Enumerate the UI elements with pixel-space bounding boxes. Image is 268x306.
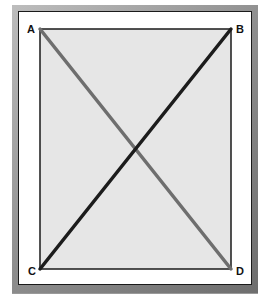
vertex-label-d: D (236, 266, 244, 277)
rectangle-diagram (0, 0, 268, 306)
vertex-label-b: B (236, 24, 244, 35)
vertex-label-a: A (27, 24, 35, 35)
vertex-label-c: C (28, 266, 36, 277)
